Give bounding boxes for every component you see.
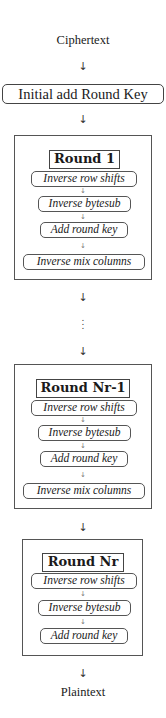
ellipsis-icon: ... (0, 316, 166, 328)
arrow-down-icon: ↓ (0, 472, 166, 479)
arrow-down-icon: ↓ (0, 443, 166, 450)
arrow-down-icon: ↓ (0, 346, 166, 358)
arrow-down-icon: ↓ (0, 619, 166, 626)
round-nr-step-add-round-key: Add round key (40, 628, 128, 644)
round-nr-step-inverse-row-shifts: Inverse row shifts (31, 573, 137, 589)
initial-add-round-key-box: Initial add Round Key (2, 84, 164, 104)
round-nr-minus-1-step-inverse-row-shifts: Inverse row shifts (31, 400, 137, 416)
round-1-step-inverse-mix-columns: Inverse mix columns (23, 254, 145, 270)
round-nr-minus-1-title: Round Nr-1 (36, 379, 130, 398)
arrow-down-icon: ↓ (0, 243, 166, 250)
round-nr-minus-1-step-inverse-bytesub: Inverse bytesub (38, 425, 131, 441)
round-1-title: Round 1 (49, 150, 120, 169)
arrow-down-icon: ↓ (0, 417, 166, 424)
round-nr-minus-1-step-inverse-mix-columns: Inverse mix columns (23, 483, 145, 499)
round-1-step-inverse-row-shifts: Inverse row shifts (31, 171, 137, 187)
arrow-down-icon: ↓ (0, 522, 166, 534)
round-1-step-inverse-bytesub: Inverse bytesub (38, 196, 131, 212)
arrow-down-icon: ↓ (0, 114, 166, 126)
arrow-down-icon: ↓ (0, 214, 166, 221)
arrow-down-icon: ↓ (0, 188, 166, 195)
round-nr-step-inverse-bytesub: Inverse bytesub (38, 600, 131, 616)
round-1-step-add-round-key: Add round key (40, 222, 128, 238)
round-nr-title: Round Nr (42, 553, 124, 572)
arrow-down-icon: ↓ (0, 292, 166, 304)
arrow-down-icon: ↓ (0, 61, 166, 73)
arrow-down-icon: ↓ (0, 668, 166, 680)
round-nr-minus-1-step-add-round-key: Add round key (40, 451, 128, 467)
input-label-ciphertext: Ciphertext (0, 33, 166, 48)
arrow-down-icon: ↓ (0, 591, 166, 598)
output-label-plaintext: Plaintext (0, 685, 166, 700)
